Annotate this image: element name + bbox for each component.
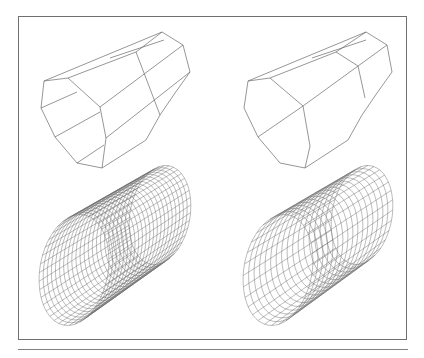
mesh-figure (0, 0, 424, 358)
panel-top-right-prism (244, 32, 392, 168)
panel-bottom-left-mesh (39, 166, 191, 326)
panel-bottom-right-mesh (243, 166, 393, 326)
panel-top-left-prism (41, 32, 190, 168)
